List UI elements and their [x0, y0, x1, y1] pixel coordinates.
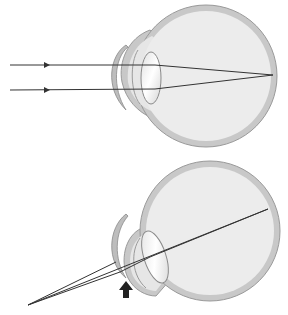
top-eye-panel: [10, 5, 277, 147]
ray-arrow-icon: [44, 87, 50, 93]
eye-diagram: [0, 0, 288, 315]
diagram-canvas: [0, 0, 288, 315]
crystalline-lens-icon: [141, 52, 161, 104]
bottom-eye-panel: [28, 161, 280, 305]
ray-arrow-icon: [44, 62, 50, 68]
